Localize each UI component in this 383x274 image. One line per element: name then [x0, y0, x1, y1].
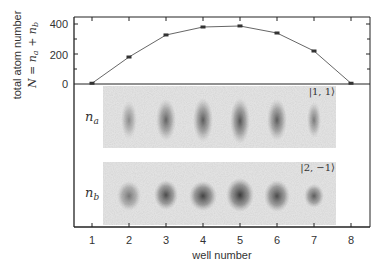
- data-point-marker: [127, 56, 132, 59]
- atom-number-line: [92, 26, 351, 83]
- xtick-4: 4: [200, 234, 206, 246]
- panel-na-label: na: [85, 109, 99, 126]
- panel-nb-label: nb: [85, 185, 99, 202]
- xtick-2: 2: [126, 234, 132, 246]
- y-ticks: [74, 24, 370, 69]
- data-point-marker: [275, 32, 280, 35]
- xtick-7: 7: [311, 234, 317, 246]
- figure: 400 200 0 1 2 3 4 5 6 7 8 well number to…: [0, 0, 383, 274]
- panel-nb-state: |2, −1⟩: [300, 162, 335, 174]
- x-axis-label: well number: [191, 249, 252, 261]
- ytick-200: 200: [50, 49, 68, 61]
- data-point-marker: [349, 82, 354, 85]
- data-point-marker: [201, 26, 206, 29]
- data-point-marker: [90, 82, 95, 85]
- data-point-marker: [312, 50, 317, 53]
- xtick-6: 6: [274, 234, 280, 246]
- xtick-8: 8: [348, 234, 354, 246]
- xtick-5: 5: [237, 234, 243, 246]
- atom-number-markers: [90, 24, 354, 84]
- xtick-1: 1: [89, 234, 95, 246]
- panel-na-state: |1, 1⟩: [309, 86, 335, 98]
- y-axis-label: total atom number: [11, 10, 23, 99]
- ytick-400: 400: [50, 18, 68, 30]
- y-axis-formula: N = na + nb: [26, 22, 40, 89]
- data-point-marker: [164, 33, 169, 36]
- ytick-0: 0: [62, 78, 68, 90]
- y-tick-labels: 400 200 0: [50, 18, 68, 90]
- x-tick-labels: 1 2 3 4 5 6 7 8: [89, 234, 354, 246]
- panel-na: [103, 86, 336, 148]
- data-point-marker: [238, 24, 243, 27]
- xtick-3: 3: [163, 234, 169, 246]
